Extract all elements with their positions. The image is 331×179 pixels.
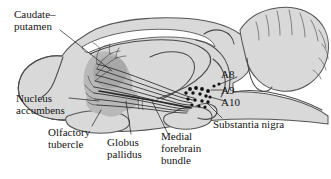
label-a8: A8 bbox=[221, 68, 235, 80]
label-nucleus-accumbens-line1: Nucleus bbox=[16, 92, 52, 104]
label-olfactory-tubercle-line1: Olfactory bbox=[48, 126, 91, 138]
label-globus-pallidus-line1: Globus bbox=[107, 136, 139, 148]
cerebellum-outline bbox=[240, 7, 329, 91]
label-medial-forebrain-bundle-line2: forebrain bbox=[161, 142, 202, 154]
dopamine-pathway-figure: Caudate– putamen Nucleus accumbens Olfac… bbox=[0, 0, 331, 179]
label-caudate-putamen-line1: Caudate– bbox=[14, 8, 56, 20]
brain-diagram-canvas: Caudate– putamen Nucleus accumbens Olfac… bbox=[0, 0, 331, 179]
label-a10: A10 bbox=[221, 96, 240, 108]
label-caudate-putamen-line2: putamen bbox=[14, 20, 52, 32]
label-globus-pallidus-line2: pallidus bbox=[107, 148, 142, 160]
label-substantia-nigra: Substantia nigra bbox=[213, 118, 284, 130]
label-olfactory-tubercle-line2: tubercle bbox=[48, 138, 84, 150]
label-a9: A9 bbox=[221, 84, 235, 96]
label-nucleus-accumbens-line2: accumbens bbox=[16, 104, 65, 116]
label-medial-forebrain-bundle-line3: bundle bbox=[161, 154, 191, 166]
label-medial-forebrain-bundle-line1: Medial bbox=[161, 130, 192, 142]
